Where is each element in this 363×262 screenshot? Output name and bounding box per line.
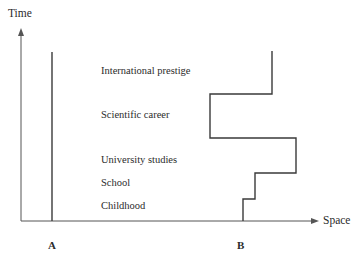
y-axis-arrowhead (18, 28, 24, 36)
y-axis-label: Time (8, 8, 32, 20)
observer-label-a: A (48, 240, 56, 251)
x-axis (21, 218, 319, 224)
stage-label-university-studies: University studies (101, 155, 177, 166)
stage-label-scientific-career: Scientific career (101, 110, 170, 121)
stage-label-international-prestige: International prestige (101, 66, 191, 77)
worldline-b (210, 51, 296, 221)
diagram-canvas (0, 0, 363, 262)
y-axis (18, 28, 24, 221)
stage-label-childhood: Childhood (101, 201, 145, 212)
stage-label-school: School (101, 178, 130, 189)
x-axis-arrowhead (311, 218, 319, 224)
spacetime-diagram: Time Space A B International prestige Sc… (0, 0, 363, 262)
observer-label-b: B (237, 240, 245, 251)
x-axis-label: Space (323, 215, 350, 227)
